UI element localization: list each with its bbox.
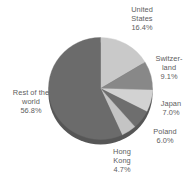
slice-label-rest-of-the-world: Rest of the world 56.8%	[3, 88, 59, 115]
pie-chart: United States 16.4% Switzer- land 9.1% J…	[0, 0, 195, 186]
pie-slice-group	[49, 38, 153, 140]
slice-label-poland: Poland 6.0%	[141, 127, 189, 145]
slice-label-japan: Japan 7.0%	[150, 99, 192, 117]
slice-label-united-states: United States 16.4%	[118, 5, 166, 32]
slice-label-switzerland: Switzer- land 9.1%	[146, 54, 192, 81]
slice-label-hong-kong: Hong Kong 4.7%	[101, 147, 143, 174]
